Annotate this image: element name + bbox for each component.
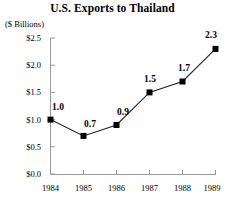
data-point-marker — [213, 46, 219, 52]
data-point-marker — [147, 89, 153, 95]
data-point-label: 0.7 — [84, 119, 96, 129]
x-tick-label: 1984 — [42, 183, 59, 193]
data-point-label: 2.3 — [205, 30, 217, 40]
data-point-marker — [114, 122, 120, 128]
data-point-label: 0.9 — [117, 107, 129, 117]
chart-container: U.S. Exports to Thailand ($ Billions) $2… — [0, 0, 225, 202]
x-axis-ticks — [51, 170, 216, 175]
plot-area — [0, 0, 225, 202]
data-point-label: 1.5 — [144, 74, 156, 84]
x-tick-label: 1989 — [204, 183, 221, 193]
x-tick-label: 1988 — [174, 183, 191, 193]
data-point-label: 1.0 — [52, 102, 64, 112]
data-point-marker — [48, 117, 54, 123]
data-line — [51, 49, 216, 136]
data-point-label: 1.7 — [178, 63, 190, 73]
data-markers — [48, 46, 219, 139]
data-point-marker — [81, 133, 87, 139]
data-point-marker — [180, 79, 186, 85]
x-axis-tick-labels: 1984 1985 1986 1987 1988 1989 — [0, 183, 225, 197]
x-tick-label: 1985 — [75, 183, 92, 193]
x-tick-label: 1987 — [141, 183, 158, 193]
x-tick-label: 1986 — [108, 183, 125, 193]
